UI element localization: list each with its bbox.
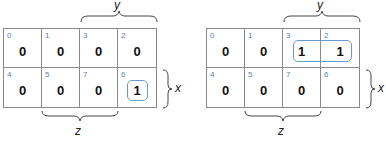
cell-value: 0 [4, 83, 41, 98]
cell-value: 0 [283, 83, 320, 98]
cell-value: 0 [42, 83, 79, 98]
cell-5: 50 [245, 68, 283, 107]
cell-index: 7 [286, 70, 290, 79]
karnaugh-map-left: y 00 10 30 20 40 50 70 61 x z [0, 0, 193, 149]
cell-value: 0 [245, 83, 282, 98]
cell-index: 5 [248, 70, 252, 79]
cell-1: 10 [42, 29, 80, 68]
cell-index: 7 [83, 70, 87, 79]
cell-2: 20 [118, 29, 156, 68]
x-label: x [378, 81, 384, 95]
cell-value: 0 [80, 83, 117, 98]
cell-index: 6 [324, 70, 328, 79]
cell-index: 0 [210, 31, 214, 40]
cell-index: 4 [210, 70, 214, 79]
z-label: z [75, 124, 81, 138]
z-label: z [278, 124, 284, 138]
x-label: x [175, 81, 181, 95]
cell-value: 0 [207, 44, 244, 59]
cell-4: 40 [4, 68, 42, 107]
cell-7: 70 [283, 68, 321, 107]
cell-7: 70 [80, 68, 118, 107]
cell-index: 2 [324, 31, 328, 40]
cell-6: 60 [321, 68, 359, 107]
cell-index: 2 [121, 31, 125, 40]
cell-index: 6 [121, 70, 125, 79]
cell-0: 00 [207, 29, 245, 68]
cell-value: 0 [42, 44, 79, 59]
z-brace [244, 110, 322, 122]
cell-value: 0 [80, 44, 117, 59]
x-brace [365, 69, 377, 109]
y-brace [283, 10, 361, 24]
cell-value: 0 [118, 44, 156, 59]
cell-index: 1 [45, 31, 49, 40]
cell-index: 0 [7, 31, 11, 40]
cell-value: 0 [245, 44, 282, 59]
y-label: y [114, 0, 120, 12]
grouping-loop [127, 80, 148, 101]
y-label: y [317, 0, 323, 12]
cell-index: 3 [286, 31, 290, 40]
x-brace [162, 69, 174, 109]
cell-1: 10 [245, 29, 283, 68]
cell-index: 1 [248, 31, 252, 40]
cell-value: 0 [4, 44, 41, 59]
cell-4: 40 [207, 68, 245, 107]
z-brace [41, 110, 119, 122]
cell-index: 5 [45, 70, 49, 79]
y-brace [80, 10, 158, 24]
karnaugh-map-right: y 00 10 31 21 40 50 70 60 x z [203, 0, 386, 149]
cell-0: 00 [4, 29, 42, 68]
cell-3: 30 [80, 29, 118, 68]
cell-value: 0 [207, 83, 244, 98]
grouping-loop [293, 40, 352, 62]
cell-5: 50 [42, 68, 80, 107]
cell-value: 0 [321, 83, 359, 98]
cell-index: 3 [83, 31, 87, 40]
cell-index: 4 [7, 70, 11, 79]
